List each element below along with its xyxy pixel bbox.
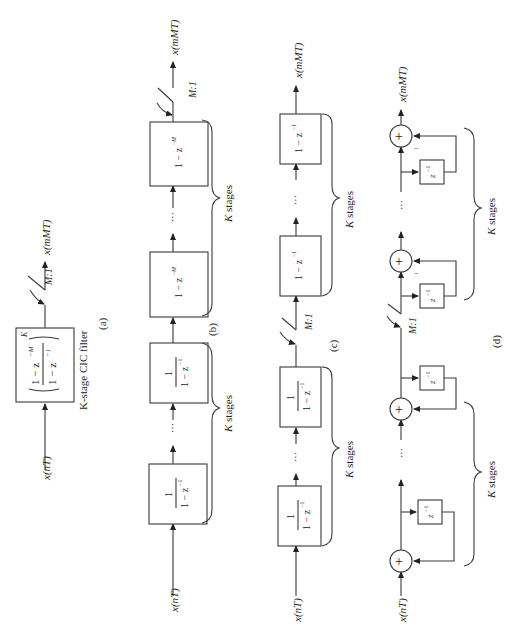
svg-text:−M: −M: [171, 266, 177, 276]
svg-text:K stages: K stages: [343, 441, 355, 479]
svg-text:K stages: K stages: [343, 191, 355, 229]
svg-text:1 − z: 1 − z: [173, 147, 184, 168]
delay-block: [418, 500, 442, 524]
svg-text:−1: −1: [425, 290, 431, 296]
delay-block: [420, 160, 444, 184]
brace: [322, 114, 339, 296]
svg-text:1 − z: 1 − z: [179, 487, 190, 508]
svg-text:(d): (d): [490, 335, 503, 348]
svg-text:K: K: [20, 331, 29, 338]
svg-text:K stages: K stages: [222, 185, 234, 223]
svg-text:1: 1: [163, 492, 174, 497]
svg-text:1: 1: [163, 371, 174, 376]
svg-text:(c): (c): [327, 339, 340, 352]
brace: [322, 367, 339, 546]
svg-text:1 − z: 1 − z: [301, 509, 312, 530]
cic-filter-figure: 1 − z −M 1 − z −1 K M:1 x(mMT) x(nT) K-s…: [0, 0, 517, 628]
svg-text:K stages: K stages: [485, 461, 497, 499]
svg-text:−: −: [414, 269, 419, 278]
svg-text:z: z: [427, 298, 437, 303]
svg-text:M:1: M:1: [303, 313, 314, 331]
svg-text:K stages: K stages: [222, 395, 234, 433]
svg-text:+: +: [395, 554, 403, 569]
svg-text:K stages: K stages: [485, 198, 497, 236]
svg-text:x(mMT): x(mMT): [396, 66, 409, 103]
integrator-block: [149, 464, 207, 524]
svg-text:−M: −M: [27, 345, 35, 357]
svg-text:−1: −1: [423, 506, 429, 512]
svg-text:1 − z: 1 − z: [29, 363, 41, 385]
delay-block: [420, 284, 444, 308]
svg-text:−1: −1: [291, 251, 297, 258]
svg-text:···: ···: [396, 448, 407, 458]
svg-text:1 − z: 1 − z: [301, 390, 312, 411]
panel-a: 1 − z −M 1 − z −1 K M:1 x(mMT) x(nT) K-s…: [16, 219, 109, 481]
svg-text:1 − z: 1 − z: [173, 277, 184, 298]
svg-text:1 − z: 1 − z: [46, 363, 58, 385]
svg-text:−M: −M: [171, 136, 177, 146]
panel-caption: (a): [96, 317, 109, 330]
svg-text:−1: −1: [299, 383, 305, 389]
svg-text:−1: −1: [291, 124, 297, 131]
panel-b: 1 1 − z −1 ··· 1 1 − z −1 1 − z −M ··· 1…: [149, 19, 234, 613]
panel-c: 1 1 − z −1 ··· 1 1 − z −1 M:1 1 − z −1 ·…: [278, 42, 355, 623]
svg-text:−1: −1: [425, 372, 431, 378]
svg-text:−1: −1: [425, 166, 431, 172]
panel-d: x(nT) + z−1 ··· + z−1 M:1 z−1 + − ···: [387, 66, 503, 623]
svg-text:x(nT): x(nT): [168, 588, 181, 613]
brace: [464, 402, 481, 566]
svg-text:x(nT): x(nT): [396, 598, 409, 623]
svg-text:−1: −1: [44, 349, 52, 357]
block-diagram: 1 − z −M 1 − z −1 K M:1 x(mMT) x(nT) K-s…: [0, 0, 517, 628]
svg-text:···: ···: [167, 212, 178, 222]
svg-text:1 − z: 1 − z: [179, 366, 190, 387]
svg-text:1 − z: 1 − z: [293, 132, 304, 153]
svg-text:···: ···: [167, 423, 178, 433]
svg-text:···: ···: [290, 195, 301, 205]
input-label: x(nT): [40, 456, 53, 481]
svg-text:M:1: M:1: [407, 317, 418, 335]
svg-text:z: z: [427, 174, 437, 179]
svg-text:−: −: [414, 144, 419, 153]
decimator-label: M:1: [43, 268, 54, 286]
svg-text:···: ···: [290, 452, 301, 462]
output-label: x(mMT): [40, 219, 53, 256]
svg-text:(b): (b): [206, 323, 219, 336]
svg-text:1: 1: [285, 514, 296, 519]
svg-text:x(mMT): x(mMT): [168, 19, 181, 56]
svg-text:+: +: [395, 402, 403, 417]
svg-text:z: z: [427, 380, 437, 385]
svg-text:+: +: [395, 254, 403, 269]
svg-text:z: z: [425, 514, 435, 519]
svg-text:M:1: M:1: [187, 81, 198, 99]
brace: [464, 128, 481, 300]
svg-text:···: ···: [396, 200, 407, 210]
svg-text:1 − z: 1 − z: [293, 259, 304, 280]
svg-text:x(nT): x(nT): [291, 598, 304, 623]
svg-text:x(mMT): x(mMT): [292, 42, 305, 79]
delay-block: [420, 366, 444, 390]
svg-text:−1: −1: [177, 359, 183, 365]
svg-text:+: +: [395, 129, 403, 144]
svg-text:1: 1: [285, 395, 296, 400]
svg-text:−1: −1: [177, 480, 183, 486]
panel-subtitle: K-stage CIC filter: [77, 330, 89, 410]
svg-text:−1: −1: [299, 502, 305, 508]
